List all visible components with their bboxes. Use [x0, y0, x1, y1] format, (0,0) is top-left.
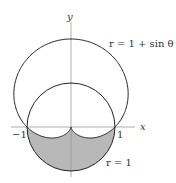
- circle-label: r = 1: [106, 157, 132, 168]
- y-axis-label: y: [66, 11, 73, 22]
- tick-label-1: 1: [117, 129, 123, 140]
- cardioid-label: r = 1 + sin θ: [109, 38, 174, 49]
- x-axis-label: x: [140, 121, 146, 132]
- polar-diagram: y x −1 1 r = 1 + sin θ r = 1: [0, 0, 176, 183]
- tick-label-neg1: −1: [12, 129, 27, 140]
